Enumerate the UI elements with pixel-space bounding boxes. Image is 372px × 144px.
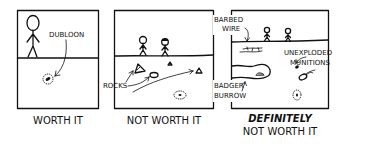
ground-line [115, 55, 213, 56]
panel-2-frame [115, 11, 214, 109]
barbed-wire-label: WIRE [222, 25, 240, 33]
badger-burrow-icon [232, 64, 270, 78]
caption-not-worth-it: NOT WORTH IT [127, 115, 202, 126]
rocks-arrow [133, 71, 193, 92]
badger-burrow-label: BURROW [214, 92, 246, 100]
stick-figure [140, 37, 147, 56]
stick-figure [27, 16, 39, 58]
rock-icon [135, 64, 145, 73]
rock-icon [196, 68, 202, 73]
munition-icon [298, 72, 313, 81]
panel-worth-it: DUBLOON WORTH IT [18, 11, 99, 127]
rock-icon [150, 73, 158, 78]
panel-not-worth-it: ROCKS NOT WORTH IT [103, 11, 214, 127]
comic-strip: DUBLOON WORTH IT [0, 0, 372, 144]
rocks-label: ROCKS [103, 82, 128, 90]
caption-worth-it: WORTH IT [33, 115, 84, 126]
panel-definitely-not-worth-it: BARBED WIRE BADGER BURROW UNEXPLODED MUN… [213, 11, 332, 138]
caption-not-worth-it-2: NOT WORTH IT [243, 126, 318, 137]
rock-icon [168, 62, 172, 65]
barbed-wire-label: BARBED [214, 16, 243, 24]
barbed-wire-icon [240, 47, 262, 52]
caption-definitely: DEFINITELY [248, 113, 313, 124]
dubloon-icon [43, 74, 53, 84]
badger-burrow-label: BADGER [214, 82, 244, 90]
dubloon-icon [293, 90, 301, 100]
panel-1-frame [18, 11, 99, 109]
stick-figure-with-hair [162, 38, 169, 56]
stick-figure [285, 28, 290, 41]
dubloon-icon [174, 91, 186, 99]
rocks-arrow [128, 77, 149, 86]
dubloon-label: DUBLOON [49, 31, 84, 39]
munitions-label: UNEXPLODED [284, 49, 332, 57]
stick-figure [264, 27, 269, 41]
